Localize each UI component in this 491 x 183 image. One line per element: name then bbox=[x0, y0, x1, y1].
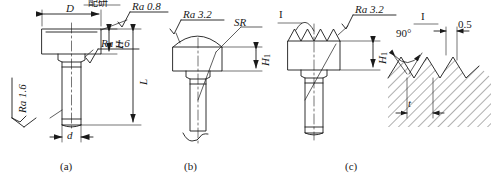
view-c-dim-H1 bbox=[340, 41, 380, 70]
note-fit-grinding: 配研 bbox=[88, 0, 108, 9]
dim-label-H1-c-sub: 1 bbox=[380, 52, 389, 56]
dim-label-H1-b-main: H bbox=[259, 58, 271, 66]
detail-angle-label: 90° bbox=[396, 27, 411, 39]
view-c-geometry bbox=[278, 22, 340, 140]
detail-pitch-label: t bbox=[408, 97, 411, 109]
caption-c: (c) bbox=[345, 160, 357, 172]
dim-label-H1-b: H1 bbox=[259, 54, 272, 66]
dim-label-H1-c-main: H bbox=[376, 56, 388, 64]
roughness-label-ra32-sphere: Ra 3.2 bbox=[183, 8, 212, 20]
roughness-label-ra08: Ra 0.8 bbox=[132, 0, 161, 12]
roughness-label-ra32-serration: Ra 3.2 bbox=[355, 3, 384, 15]
roughness-label-ra16-shank: Ra 1.6 bbox=[16, 84, 28, 113]
view-a-ra16-neck-callout bbox=[85, 49, 139, 63]
dim-label-d: d bbox=[67, 129, 73, 141]
detail-marker-I: I bbox=[421, 10, 425, 22]
engineering-drawing-sheet: D H L d 配研 Ra 0.8 Ra 1.6 Ra 1.6 Ra 3.2 S… bbox=[0, 0, 491, 183]
view-c-ra32-callout bbox=[338, 15, 396, 35]
dim-label-H1-b-sub: 1 bbox=[263, 54, 272, 58]
caption-a: (a) bbox=[60, 160, 72, 172]
view-b-geometry bbox=[173, 36, 222, 146]
dim-label-D: D bbox=[66, 2, 74, 14]
detail-width-label: 0.5 bbox=[458, 18, 472, 30]
caption-b: (b) bbox=[184, 160, 197, 172]
detail-I-geometry bbox=[388, 24, 491, 127]
view-c-inner-leader bbox=[305, 44, 336, 100]
view-b-ra32-callout bbox=[170, 20, 224, 43]
dim-label-SR: SR bbox=[234, 16, 246, 28]
view-a-geometry bbox=[42, 23, 101, 131]
roughness-label-ra16-neck: Ra 1.6 bbox=[101, 37, 130, 49]
dim-label-H1-c: H1 bbox=[376, 52, 389, 64]
detail-marker-I-view-c: I bbox=[279, 8, 283, 20]
view-b-dim-H1 bbox=[222, 47, 262, 71]
dim-label-L: L bbox=[137, 79, 149, 85]
